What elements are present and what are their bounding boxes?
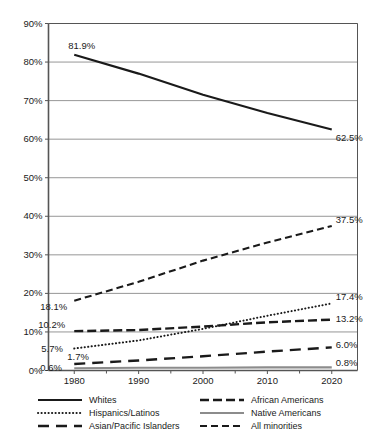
x-tick-label: 1990 xyxy=(128,375,149,386)
legend-label: Asian/Pacific Islanders xyxy=(89,421,180,431)
y-tick-label: 30% xyxy=(23,249,43,260)
legend-label: Hispanics/Latinos xyxy=(89,408,160,418)
line-chart: 0%10%20%30%40%50%60%70%80%90% 1980199020… xyxy=(0,0,368,439)
legend-label: Native Americans xyxy=(251,408,322,418)
data-label-end: 17.4% xyxy=(336,291,363,302)
series-line xyxy=(74,55,332,130)
x-tick-label: 1980 xyxy=(64,375,85,386)
data-label-start: 5.7% xyxy=(41,343,63,354)
legend-item: Asian/Pacific Islanders xyxy=(38,421,180,431)
x-tick-label: 2000 xyxy=(192,375,213,386)
legend-label: Whites xyxy=(89,395,117,405)
legend-item: Hispanics/Latinos xyxy=(38,408,160,418)
data-label-end: 6.0% xyxy=(336,339,358,350)
y-tick-label: 70% xyxy=(23,95,43,106)
legend: WhitesAfrican AmericansHispanics/Latinos… xyxy=(38,395,324,431)
chart-container: 0%10%20%30%40%50%60%70%80%90% 1980199020… xyxy=(0,0,368,439)
data-label-start: 1.7% xyxy=(67,351,89,362)
y-tick-label: 50% xyxy=(23,172,43,183)
data-label-start: 81.9% xyxy=(68,40,95,51)
legend-label: All minorities xyxy=(251,421,303,431)
y-tick-label: 80% xyxy=(23,56,43,67)
data-label-end: 37.5% xyxy=(336,214,363,225)
series-line xyxy=(74,303,332,348)
legend-item: Native Americans xyxy=(200,408,322,418)
data-label-end: 13.2% xyxy=(336,313,363,324)
x-axis-ticks: 19801990200020102020 xyxy=(64,371,343,387)
plot-frame xyxy=(49,24,358,371)
y-tick-label: 90% xyxy=(23,18,43,29)
y-tick-label: 60% xyxy=(23,133,43,144)
data-label-start: 18.1% xyxy=(40,301,67,312)
y-tick-label: 20% xyxy=(23,287,43,298)
gridlines xyxy=(49,24,358,332)
series-line xyxy=(74,347,332,364)
legend-item: All minorities xyxy=(200,421,303,431)
x-tick-label: 2020 xyxy=(321,375,342,386)
x-tick-label: 2010 xyxy=(257,375,278,386)
series-line xyxy=(74,367,332,368)
y-tick-label: 40% xyxy=(23,210,43,221)
data-label-start: 10.2% xyxy=(38,319,65,330)
data-label-start: 0.6% xyxy=(40,362,62,373)
series-lines xyxy=(74,55,332,368)
legend-item: Whites xyxy=(38,395,117,405)
data-label-end: 62.5% xyxy=(336,132,363,143)
series-line xyxy=(74,226,332,301)
legend-label: African Americans xyxy=(251,395,324,405)
data-label-end: 0.8% xyxy=(336,357,358,368)
legend-item: African Americans xyxy=(200,395,324,405)
data-labels: 81.9%62.5%18.1%37.5%10.2%13.2%5.7%17.4%1… xyxy=(38,40,363,373)
